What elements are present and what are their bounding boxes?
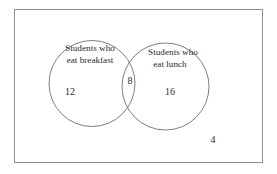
set-label-lunch-line2: eat lunch <box>131 59 209 70</box>
region-count-breakfast-only: 12 <box>58 86 82 98</box>
region-count-intersection: 8 <box>119 75 141 87</box>
set-label-breakfast-line2: eat breakfast <box>49 55 131 66</box>
region-count-lunch-only: 16 <box>158 86 182 98</box>
venn-diagram: Students who eat breakfast Students who … <box>0 0 277 174</box>
set-label-breakfast-line1: Students who <box>49 43 131 54</box>
venn-diagram-graphic <box>0 0 277 174</box>
region-count-outside-sets: 4 <box>202 134 224 146</box>
set-label-lunch-line1: Students who <box>134 47 212 58</box>
